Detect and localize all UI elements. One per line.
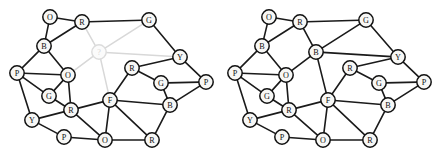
node-label: B	[167, 101, 173, 110]
graph-node[interactable]: R	[363, 133, 377, 147]
graph-edge	[287, 82, 289, 104]
node-label: O	[283, 71, 289, 80]
graph-node[interactable]: G	[359, 13, 373, 27]
graph-node[interactable]: R	[75, 15, 89, 29]
graph-edge	[271, 80, 281, 91]
graph-node[interactable]: Y	[243, 113, 257, 127]
graph-node[interactable]: G	[372, 76, 386, 90]
graph-node[interactable]: Y	[391, 50, 405, 64]
node-label: G	[264, 92, 270, 101]
graph-node[interactable]: B	[255, 39, 269, 53]
graph-edge	[89, 20, 143, 22]
graph-node[interactable]: P	[275, 130, 289, 144]
graph-node[interactable]: B	[381, 98, 395, 112]
graph-node[interactable]: G	[142, 13, 156, 27]
graph-edge	[294, 114, 318, 135]
graph-edge	[386, 82, 418, 83]
graph-node[interactable]: R	[293, 15, 307, 29]
graph-edge	[237, 79, 248, 113]
node-group-query-graph: ORGB?YPORGPGFBRYPOR	[10, 10, 213, 147]
graph-node[interactable]: R	[343, 61, 357, 75]
node-label: P	[422, 78, 427, 87]
edge-group-solved-graph	[237, 18, 419, 140]
graph-edge	[106, 107, 109, 134]
graph-node[interactable]: O	[98, 133, 112, 147]
graph-edge	[289, 137, 317, 139]
node-label: P	[233, 69, 238, 78]
graph-node[interactable]: B	[163, 98, 177, 112]
graph-edge	[22, 77, 43, 92]
graph-edge	[242, 73, 280, 74]
graph-node[interactable]: G	[42, 89, 56, 103]
graph-edge	[394, 86, 419, 102]
graph-edge	[322, 24, 361, 49]
nodes-layer: ORGB?YPORGPGFBRYPORORGBBYPORGPGFBRYPOR	[10, 10, 431, 147]
graph-node[interactable]: R	[282, 103, 296, 117]
graph-edge	[45, 23, 48, 39]
graph-node[interactable]: O	[43, 10, 57, 24]
graph-edge	[323, 52, 392, 56]
graph-edge	[240, 51, 258, 69]
node-label: P	[62, 133, 67, 142]
graph-edge	[117, 101, 164, 105]
graph-edge	[77, 102, 103, 109]
graph-edge	[50, 26, 77, 43]
graph-edge	[240, 77, 261, 92]
node-label: G	[363, 16, 369, 25]
graph-node[interactable]: P	[57, 130, 71, 144]
node-label: O	[47, 13, 53, 22]
graph-edge	[53, 80, 63, 91]
graph-edge	[356, 71, 373, 80]
graph-node[interactable]: G	[260, 89, 274, 103]
node-label: R	[286, 106, 292, 115]
node-label: B	[41, 42, 47, 51]
graph-node[interactable]: P	[199, 75, 213, 89]
graph-node[interactable]: P	[228, 66, 242, 80]
graph-node[interactable]: O	[279, 68, 293, 82]
graph-node[interactable]: R	[64, 103, 78, 117]
graph-edge	[155, 111, 167, 134]
node-label: B	[385, 101, 391, 110]
node-label: F	[108, 96, 113, 105]
graph-edge	[176, 86, 201, 102]
graph-node[interactable]: O	[316, 133, 330, 147]
graph-node[interactable]: O	[61, 68, 75, 82]
graph-edge	[24, 73, 62, 74]
graph-node[interactable]: F	[321, 93, 335, 107]
graph-edge	[268, 26, 295, 43]
node-label: Y	[395, 53, 401, 62]
graph-edge	[307, 20, 360, 22]
graph-edge	[105, 24, 144, 49]
graph-node[interactable]: O	[262, 10, 276, 24]
graph-node[interactable]: R	[145, 133, 159, 147]
node-label: Y	[177, 53, 183, 62]
graph-node[interactable]: P	[10, 66, 24, 80]
node-label: R	[367, 136, 373, 145]
graph-edge	[291, 56, 311, 71]
graph-node[interactable]: Y	[173, 50, 187, 64]
graph-edge	[370, 25, 393, 52]
graph-node-unknown[interactable]: ?	[92, 45, 106, 59]
node-label: G	[46, 92, 52, 101]
graph-node[interactable]: Y	[25, 113, 39, 127]
graph-edge	[403, 62, 419, 78]
node-label: P	[15, 69, 20, 78]
graph-edge	[138, 58, 173, 66]
graph-edge	[22, 51, 40, 69]
graph-node[interactable]: P	[417, 75, 431, 89]
graph-node[interactable]: F	[103, 93, 117, 107]
graph-edge	[273, 100, 284, 107]
graph-edge	[256, 112, 282, 119]
node-label: O	[102, 136, 108, 145]
graph-node[interactable]: B	[309, 45, 323, 59]
graph-node[interactable]: R	[125, 61, 139, 75]
graph-edge	[100, 58, 108, 93]
node-label: Y	[247, 116, 253, 125]
graph-node[interactable]: B	[37, 39, 51, 53]
graph-node[interactable]: G	[154, 76, 168, 90]
node-label: G	[158, 79, 164, 88]
graph-edge	[266, 51, 282, 70]
edge-group-query-graph	[19, 18, 201, 140]
graph-edge	[185, 62, 201, 78]
graph-edge	[76, 114, 100, 135]
